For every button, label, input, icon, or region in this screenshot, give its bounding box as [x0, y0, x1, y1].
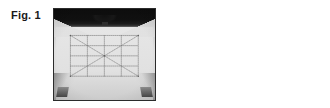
- figure-1-photo: [53, 8, 156, 101]
- figure-1-scene: [54, 9, 155, 100]
- dotted-grid-marking: [69, 34, 140, 78]
- hem-clip-right: [140, 87, 153, 97]
- hem-clip-left: [56, 87, 69, 97]
- figure-1-caption: Fig. 1: [11, 9, 41, 21]
- tshirt-collar-tag: [102, 22, 108, 25]
- figure-1-block: Fig. 1: [0, 0, 162, 108]
- figure-2-block: Fig. 2: [163, 0, 330, 108]
- figure-sheet: Fig. 1: [0, 0, 330, 108]
